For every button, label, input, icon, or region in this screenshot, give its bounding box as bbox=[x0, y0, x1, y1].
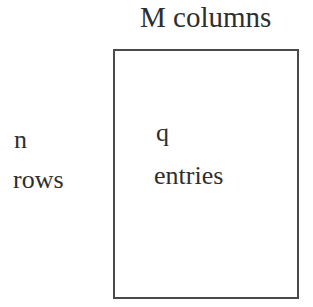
entry-count-symbol: q bbox=[156, 120, 169, 146]
entries-label: entries bbox=[154, 163, 223, 189]
row-count-symbol: n bbox=[14, 127, 27, 153]
rows-label: rows bbox=[13, 167, 64, 193]
columns-label: M columns bbox=[140, 3, 271, 32]
